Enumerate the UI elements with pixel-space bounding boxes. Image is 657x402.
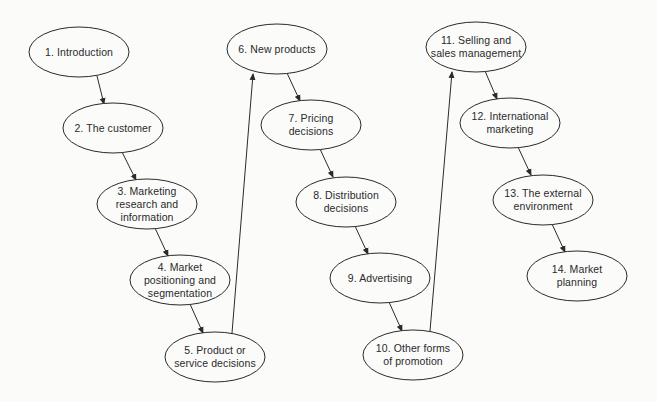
node-label: 1. Introduction [45, 46, 113, 59]
node-label: 11. Selling and sales management [431, 34, 521, 60]
node-label: 12. International marketing [471, 110, 548, 136]
arrow-12-to-13 [518, 147, 531, 175]
node-3: 3. Marketing research and information [97, 179, 197, 229]
node-9: 9. Advertising [330, 253, 430, 303]
arrow-8-to-9 [355, 226, 368, 254]
node-label: 3. Marketing research and information [116, 185, 179, 224]
arrow-5-to-6 [232, 74, 253, 333]
node-label: 7. Pricing decisions [289, 112, 334, 138]
arrow-9-to-10 [389, 302, 402, 331]
node-2: 2. The customer [63, 103, 163, 153]
node-13: 13. The external environment [493, 175, 593, 225]
node-11: 11. Selling and sales management [426, 22, 526, 72]
node-label: 10. Other forms of promotion [376, 342, 450, 368]
node-4: 4. Market positioning and segmentation [130, 255, 230, 305]
node-14: 14. Market planning [527, 251, 627, 301]
arrow-10-to-11 [430, 72, 452, 331]
arrow-6-to-7 [287, 73, 300, 101]
node-label: 14. Market planning [552, 263, 603, 289]
arrow-2-to-3 [122, 152, 136, 180]
node-label: 8. Distribution decisions [313, 189, 379, 215]
node-10: 10. Other forms of promotion [363, 330, 463, 380]
arrow-11-to-12 [485, 71, 497, 99]
arrow-3-to-4 [155, 228, 168, 256]
node-8: 8. Distribution decisions [296, 177, 396, 227]
node-1: 1. Introduction [29, 27, 129, 77]
node-label: 6. New products [238, 43, 315, 56]
arrow-13-to-14 [552, 224, 565, 252]
arrow-4-to-5 [190, 304, 203, 333]
node-label: 13. The external environment [504, 187, 581, 213]
arrow-1-to-2 [97, 76, 104, 104]
node-label: 2. The customer [74, 122, 151, 135]
node-7: 7. Pricing decisions [261, 100, 361, 150]
node-label: 5. Product or service decisions [174, 344, 256, 370]
node-5: 5. Product or service decisions [165, 332, 265, 382]
node-12: 12. International marketing [460, 98, 560, 148]
node-label: 9. Advertising [348, 272, 412, 285]
node-label: 4. Market positioning and segmentation [144, 261, 216, 300]
node-6: 6. New products [227, 24, 327, 74]
arrow-7-to-8 [320, 149, 333, 177]
